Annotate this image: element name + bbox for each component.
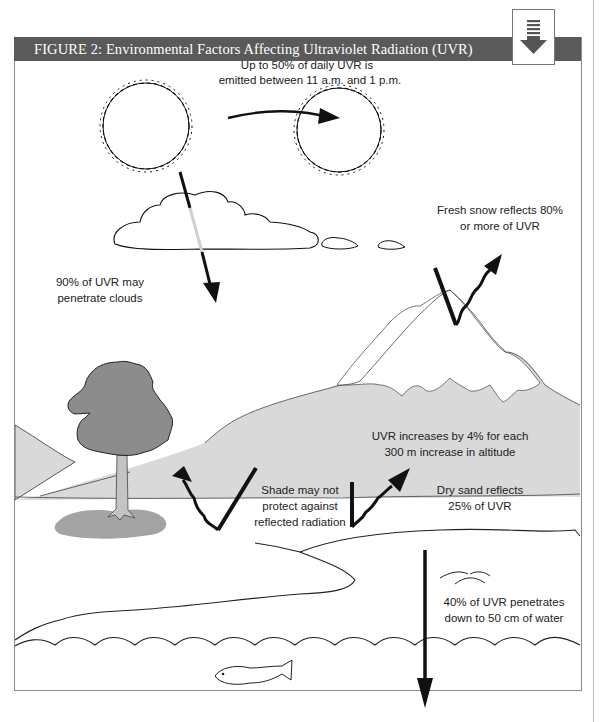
label-altitude-line1: UVR increases by 4% for each <box>355 428 545 444</box>
fish-icon <box>215 660 292 684</box>
label-clouds-line1: 90% of UVR may <box>45 274 155 290</box>
label-altitude-line2: 300 m increase in altitude <box>355 444 545 460</box>
cloud-small-1 <box>322 237 358 249</box>
label-snow-line1: Fresh snow reflects 80% <box>430 202 570 218</box>
shoreline <box>255 529 580 552</box>
label-water-line2: down to 50 cm of water <box>434 610 574 626</box>
label-clouds-line2: penetrate clouds <box>45 290 155 306</box>
label-snow-line2: or more of UVR <box>430 218 570 234</box>
label-shade-line2: protect against <box>250 498 350 514</box>
cloud-small-2 <box>378 241 405 250</box>
water-waves <box>15 637 580 646</box>
label-sun-line2: emitted between 11 a.m. and 1 p.m. <box>190 72 430 88</box>
tree-crown <box>68 361 173 455</box>
label-shade-line1: Shade may not <box>250 482 350 498</box>
label-shade-line3: reflected radiation <box>245 514 355 530</box>
label-sand-line2: 25% of UVR <box>420 498 540 514</box>
label-sand-line1: Dry sand reflects <box>420 482 540 498</box>
label-sun-line1: Up to 50% of daily UVR is <box>210 57 404 73</box>
cloud-large <box>114 191 318 249</box>
label-water-line1: 40% of UVR penetrates <box>434 594 574 610</box>
